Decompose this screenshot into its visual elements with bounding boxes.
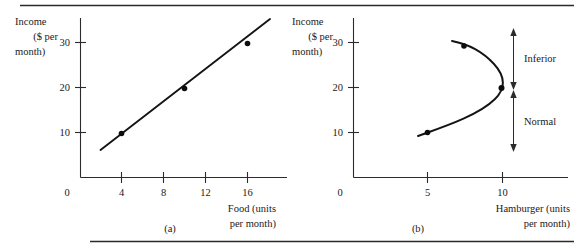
- panel-a-engel-line: [101, 19, 271, 150]
- panel-a-ytick-label-20: 20: [60, 82, 71, 93]
- panel-b-y-axis-title-line2: ($ per: [308, 31, 333, 43]
- panel-b-x-axis-title-line1: Hamburger (units: [496, 203, 570, 215]
- panel-a-xtick-label-16: 16: [242, 187, 253, 198]
- panel-a: 30 20 10 0 4 8 12 16 Income ($ per month…: [15, 16, 287, 235]
- panel-b: 30 20 10 0 5 10 Income ($ per month) Ham…: [292, 16, 570, 235]
- panel-b-data-point-7-29: [461, 43, 467, 49]
- figure-container: 30 20 10 0 4 8 12 16 Income ($ per month…: [0, 0, 574, 250]
- panel-a-ytick-label-10: 10: [60, 127, 71, 138]
- panel-b-ytick-label-20: 20: [333, 82, 344, 93]
- panel-a-ytick-label-30: 30: [60, 37, 71, 48]
- inferior-arrow-up-icon: [510, 28, 516, 36]
- panel-b-data-point-5-10: [425, 130, 431, 136]
- panel-b-ytick-label-30: 30: [333, 37, 344, 48]
- inferior-arrow-down-icon: [510, 82, 516, 90]
- inferior-region-label: Inferior: [524, 53, 557, 64]
- panel-a-y-axis-title-line2: ($ per: [33, 31, 58, 43]
- panel-a-data-point-4-10: [119, 131, 125, 137]
- panel-b-caption: (b): [412, 223, 425, 235]
- panel-a-xtick-label-4: 4: [119, 187, 125, 198]
- panel-a-xtick-label-8: 8: [161, 187, 166, 198]
- panel-b-normal-range-indicator: Normal: [510, 90, 556, 152]
- panel-a-origin-label: 0: [64, 187, 69, 198]
- panel-a-caption: (a): [164, 223, 176, 235]
- panel-b-y-axis-title-line1: Income: [292, 16, 324, 27]
- panel-b-y-axis-title-line3: month): [292, 46, 323, 58]
- normal-arrow-down-icon: [510, 144, 516, 152]
- economics-engel-curves-figure: 30 20 10 0 4 8 12 16 Income ($ per month…: [0, 0, 574, 250]
- panel-b-data-point-10-20: [499, 85, 505, 91]
- panel-a-x-axis-title-line1: Food (units: [228, 203, 276, 215]
- normal-arrow-up-icon: [510, 90, 516, 98]
- panel-a-x-axis-title-line2: per month): [230, 218, 277, 230]
- normal-region-label: Normal: [524, 116, 556, 127]
- panel-b-x-axis-title-line2: per month): [524, 218, 571, 230]
- panel-a-xtick-label-12: 12: [200, 187, 211, 198]
- panel-b-xtick-label-5: 5: [425, 187, 430, 198]
- panel-a-data-point-10-20: [182, 86, 188, 92]
- panel-a-y-axis-title-line3: month): [15, 46, 46, 58]
- panel-b-ytick-label-10: 10: [333, 127, 344, 138]
- panel-b-origin-label: 0: [337, 187, 342, 198]
- panel-b-engel-curve: [418, 41, 503, 136]
- panel-a-data-point-16-30: [245, 41, 251, 47]
- panel-b-inferior-range-indicator: Inferior: [510, 28, 556, 90]
- panel-b-xtick-label-10: 10: [497, 187, 508, 198]
- panel-a-y-axis-title-line1: Income: [15, 16, 47, 27]
